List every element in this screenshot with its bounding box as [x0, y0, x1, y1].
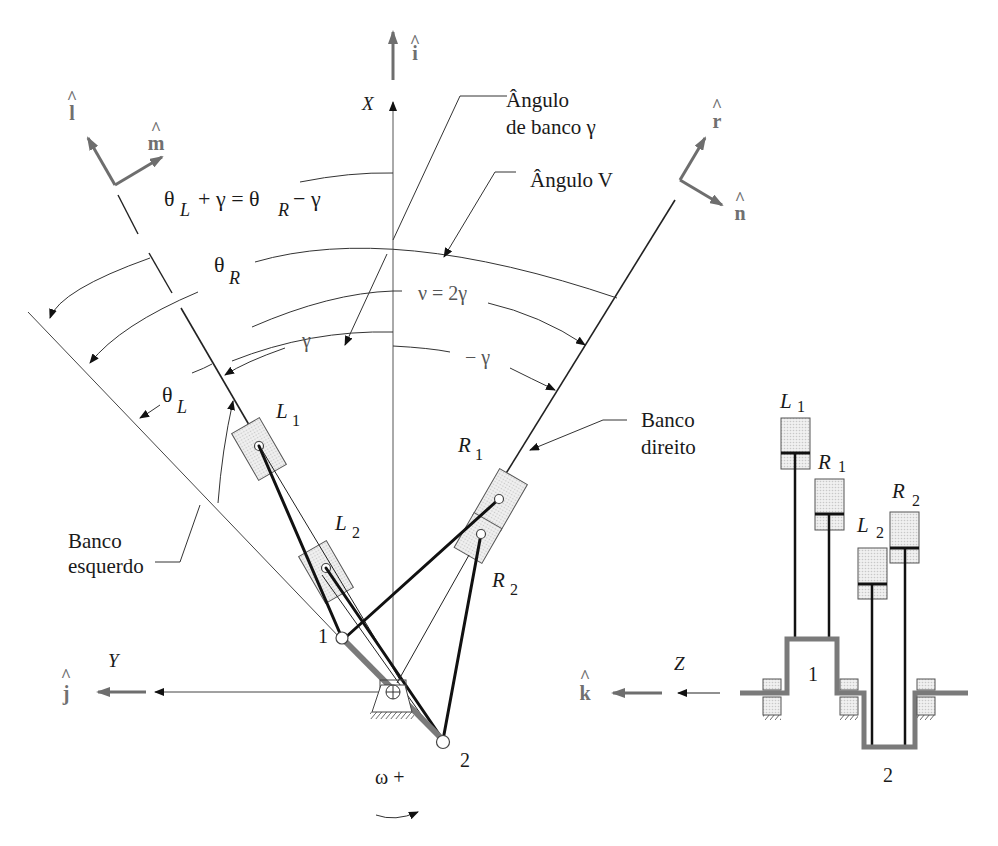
svg-text:L: L [856, 513, 869, 537]
unit-vector-j: ^ j [61, 666, 146, 705]
side-cylinder-R1: R 1 [815, 450, 846, 638]
unit-vector-i: ^ i [393, 32, 420, 80]
svg-text:1: 1 [838, 458, 846, 475]
crank-pin-2-label: 2 [460, 749, 470, 771]
svg-text:l: l [69, 102, 75, 124]
unit-vectors-l-m: ^ l ^ m [67, 88, 165, 185]
bank-angle-callout: Ângulo de banco γ [345, 88, 596, 345]
svg-text:L: L [176, 397, 187, 417]
theta-r-label: θ R [214, 252, 240, 288]
svg-text:ω +: ω + [375, 766, 404, 788]
svg-text:Ângulo V: Ângulo V [530, 168, 613, 192]
svg-text:R: R [457, 433, 471, 457]
svg-text:2: 2 [510, 581, 518, 598]
svg-text:direito: direito [641, 435, 696, 459]
svg-text:+ γ = θ: + γ = θ [198, 186, 260, 211]
svg-text:m: m [148, 132, 165, 154]
svg-text:θ: θ [164, 186, 175, 211]
svg-text:L: L [275, 399, 288, 423]
svg-text:Z: Z [674, 653, 685, 674]
svg-text:j: j [62, 682, 70, 705]
left-bank-callout: Banco esquerdo [68, 505, 200, 578]
crank-pin-1-label: 1 [318, 625, 328, 647]
svg-text:2: 2 [912, 492, 920, 509]
svg-text:X: X [361, 93, 375, 114]
theta-l-label: θ L [162, 382, 187, 417]
z-axis: Z [674, 653, 720, 693]
svg-text:2: 2 [352, 524, 360, 541]
side-cylinder-L2: L 2 [856, 513, 887, 745]
angle-arcs [50, 173, 617, 503]
svg-text:r: r [713, 110, 722, 132]
svg-text:Banco: Banco [68, 529, 122, 553]
throw-1-label: 1 [808, 663, 818, 685]
crankshaft-front: 1 2 [318, 625, 470, 771]
piston-pin-R1 [495, 495, 504, 504]
v-angle-callout: Ângulo V [444, 168, 613, 257]
svg-text:R: R [491, 568, 505, 592]
equation-label: θ L + γ = θ R − γ [164, 186, 321, 220]
x-axis: X [361, 93, 393, 665]
svg-text:L: L [779, 389, 792, 413]
svg-text:1: 1 [797, 398, 805, 415]
cylinder-R1: R 1 [457, 433, 527, 531]
svg-text:esquerdo: esquerdo [68, 554, 144, 578]
svg-text:θ: θ [162, 382, 173, 407]
y-axis: Y [108, 650, 383, 692]
crankshaft-side: 1 2 [740, 639, 968, 786]
right-bank-axis [505, 200, 675, 475]
unit-vectors-r-n: ^ r ^ n [680, 96, 746, 224]
svg-text:L: L [334, 511, 347, 535]
rotation-omega: ω + [375, 766, 418, 818]
v-engine-diagram: ^ i X Y ^ j ^ l ^ m ^ r ^ n [0, 0, 998, 846]
svg-text:R: R [817, 450, 831, 474]
svg-text:Y: Y [108, 650, 121, 671]
v-angle-equation: ν = 2γ [418, 282, 467, 305]
left-reference-line [28, 312, 342, 640]
svg-text:L: L [179, 200, 190, 220]
svg-text:Banco: Banco [641, 408, 695, 432]
gamma-label: γ [301, 329, 311, 352]
throw-2-label: 2 [883, 764, 893, 786]
right-bank-callout: Banco direito [530, 408, 696, 459]
piston-pin-R2 [477, 530, 486, 539]
svg-text:1: 1 [292, 412, 300, 429]
svg-text:R: R [277, 200, 289, 220]
svg-text:k: k [579, 682, 591, 704]
svg-text:1: 1 [475, 446, 483, 463]
cylinder-R2: R 2 [454, 513, 518, 598]
side-cylinder-L1: L 1 [779, 389, 810, 638]
svg-text:θ: θ [214, 252, 225, 277]
svg-text:R: R [891, 479, 905, 503]
svg-text:i: i [412, 42, 418, 64]
minus-gamma-label: − γ [465, 346, 490, 369]
svg-text:Ângulo: Ângulo [506, 88, 569, 112]
svg-text:− γ: − γ [293, 186, 321, 211]
unit-vector-k: ^ k [579, 667, 662, 704]
svg-text:2: 2 [876, 524, 884, 541]
svg-text:de banco γ: de banco γ [506, 115, 596, 139]
left-bank-axis [118, 195, 252, 430]
svg-text:R: R [228, 268, 240, 288]
svg-text:n: n [734, 202, 745, 224]
